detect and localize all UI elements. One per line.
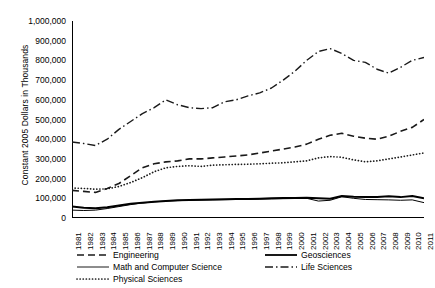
legend-item-label: Geosciences [301,250,351,260]
series-line [72,49,424,146]
x-tick-label: 2001 [310,232,318,250]
x-tick-label: 1993 [216,232,224,250]
series-line [72,153,424,189]
legend-line-swatch [76,274,110,284]
x-tick-label: 1989 [169,232,177,250]
series-line [72,196,424,208]
plot-area [72,21,424,218]
x-tick-label: 1986 [134,232,142,250]
y-tick-label: 500,000 [8,116,66,125]
x-tick-label: 1995 [239,232,247,250]
x-tick-label: 2010 [415,232,423,250]
x-tick-label: 1988 [157,232,165,250]
x-tick-label: 2005 [357,232,365,250]
x-tick-label: 1997 [263,232,271,250]
legend-item[interactable]: Math and Computer Science [76,261,222,273]
legend-item[interactable]: Engineering [76,249,159,261]
y-tick-label: 0 [8,214,66,223]
legend-line-swatch [264,250,298,260]
x-tick-label: 1987 [146,232,154,250]
x-tick-label: 2003 [333,232,341,250]
x-tick-label: 1999 [286,232,294,250]
legend-line-swatch [264,262,298,272]
chart-legend: EngineeringGeosciencesMath and Computer … [76,249,426,287]
y-tick-label: 700,000 [8,76,66,85]
legend-line-swatch [76,250,110,260]
x-tick-label: 2002 [322,232,330,250]
legend-item[interactable]: Life Sciences [264,261,352,273]
x-tick-label: 1983 [99,232,107,250]
legend-item[interactable]: Geosciences [264,249,351,261]
x-tick-label: 1982 [87,232,95,250]
x-tick-label: 1994 [228,232,236,250]
y-tick-label: 300,000 [8,155,66,164]
x-tick-label: 1992 [204,232,212,250]
legend-item[interactable]: Physical Sciences [76,273,182,285]
x-tick-label: 2011 [427,233,435,250]
legend-item-label: Physical Sciences [113,274,182,284]
legend-item-label: Life Sciences [301,262,352,272]
series-line [72,197,424,211]
y-tick-label: 100,000 [8,194,66,203]
y-tick-label: 800,000 [8,56,66,65]
x-tick-label: 2009 [404,232,412,250]
y-tick-label: 900,000 [8,37,66,46]
y-tick-label: 200,000 [8,175,66,184]
x-tick-label: 1998 [275,232,283,250]
y-tick-label: 400,000 [8,135,66,144]
x-tick-label: 1981 [75,232,83,250]
legend-line-swatch [76,262,110,272]
x-tick-label: 1985 [122,232,130,250]
plot-svg [72,21,424,218]
x-tick-label: 2007 [380,232,388,250]
x-tick-label: 1984 [110,232,118,250]
y-axis-tick-labels: 1,000,000900,000800,000700,000600,000500… [8,0,66,288]
x-tick-label: 2004 [345,232,353,250]
x-tick-label: 1990 [181,232,189,250]
x-tick-label: 2000 [298,232,306,250]
x-tick-label: 2008 [392,232,400,250]
x-tick-label: 1991 [193,232,201,250]
y-tick-label: 1,000,000 [8,17,66,26]
legend-item-label: Math and Computer Science [113,262,222,272]
legend-item-label: Engineering [113,250,159,260]
series-line [72,120,424,193]
x-tick-label: 1996 [251,232,259,250]
x-tick-label: 2006 [369,232,377,250]
y-tick-label: 600,000 [8,96,66,105]
